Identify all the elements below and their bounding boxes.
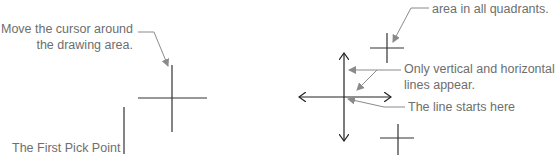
quadrants-label: area in all quadrants. [432, 1, 549, 17]
ortho-line-1: Only vertical and horizontal [404, 61, 555, 77]
ortho-line-2: lines appear. [404, 77, 555, 93]
start-callout-arrow [348, 99, 405, 107]
quadrants-callout-arrow [393, 8, 429, 42]
ortho-cross-arrows-icon [299, 53, 391, 141]
instruction-label: Move the cursor around the drawing area. [0, 21, 133, 53]
instruction-callout-arrow [138, 32, 168, 66]
crosshair-upper-icon [370, 33, 404, 63]
first-pick-point-label: The First Pick Point [12, 140, 120, 156]
instruction-line-1: Move the cursor around [0, 21, 133, 37]
crosshair-lower-icon [380, 124, 414, 155]
ortho-label: Only vertical and horizontal lines appea… [404, 61, 555, 93]
line-start-label: The line starts here [408, 99, 515, 115]
cursor-crosshair-icon [138, 65, 207, 132]
instruction-line-2: the drawing area. [0, 37, 133, 53]
ortho-callout-arrows [349, 70, 401, 90]
